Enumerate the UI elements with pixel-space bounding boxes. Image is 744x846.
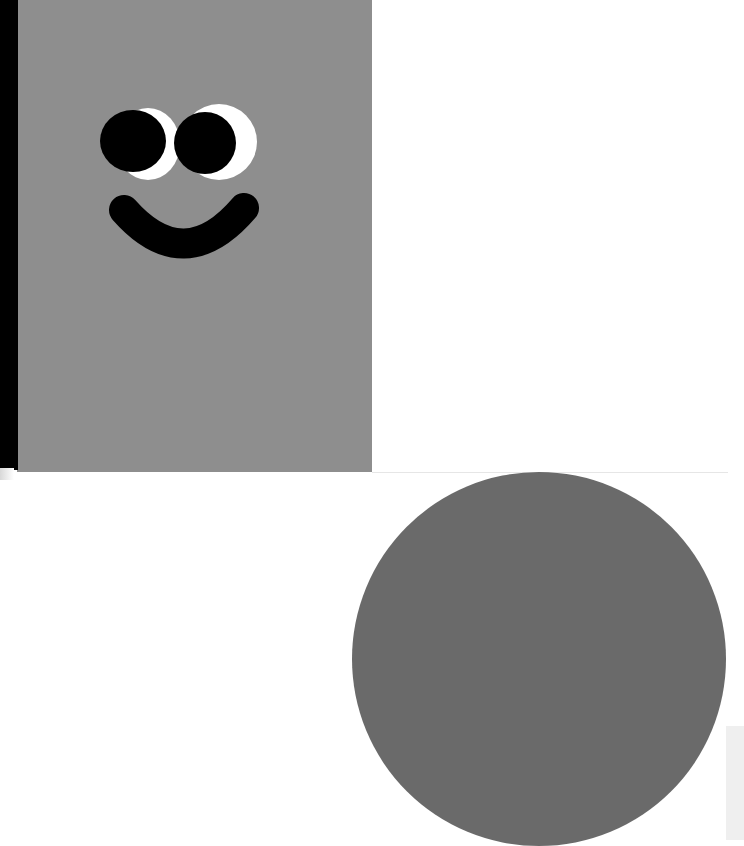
right-eye [174, 104, 257, 180]
right-edge-panel [726, 726, 744, 840]
left-pupil [100, 110, 166, 172]
gray-circle [352, 472, 726, 846]
left-eye [100, 108, 180, 180]
smile-mouth [124, 208, 244, 244]
right-pupil [174, 112, 236, 174]
